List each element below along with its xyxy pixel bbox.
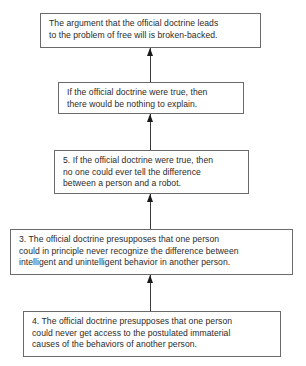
arrow-up-icon [150, 48, 151, 82]
arrow-up-icon [150, 114, 151, 150]
premise-3-box: 3. The official doctrine presupposes tha… [10, 229, 293, 275]
premise-nothing-to-explain-box: If the official doctrine were true, then… [58, 82, 244, 114]
premise-5-box: 5. If the official doctrine were true, t… [54, 150, 249, 194]
arrow-up-icon [150, 194, 151, 229]
arrow-up-icon [150, 275, 151, 311]
premise-4-box: 4. The official doctrine presupposes tha… [23, 311, 281, 357]
conclusion-box: The argument that the official doctrine … [40, 13, 261, 48]
